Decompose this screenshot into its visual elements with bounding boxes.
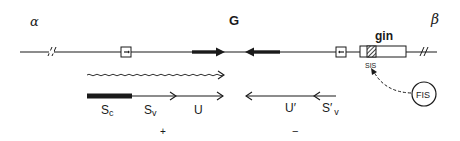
fis-binding-dashed-arrow: [371, 68, 411, 93]
inverted-repeat-left-arrow: [192, 48, 225, 57]
inverted-repeat-right-arrow: [245, 48, 280, 57]
minus-strand-sign: −: [292, 125, 298, 137]
sis-label: SIS: [365, 62, 377, 69]
sv-prime-label: S′v: [322, 101, 339, 117]
u-label: U: [194, 103, 203, 117]
sc-label: Sc: [101, 103, 114, 118]
u-prime-label: U′: [285, 101, 297, 115]
gin-label: gin: [375, 29, 393, 43]
plus-strand-sign: +: [160, 126, 166, 137]
right-promoter-box: [336, 47, 346, 57]
beta-label: β: [430, 11, 439, 27]
plus-strand-line: [87, 92, 223, 100]
left-promoter-box: [121, 47, 131, 57]
g-segment-label: G: [229, 13, 239, 28]
gin-gene-box: [360, 46, 406, 57]
fis-label: FIS: [416, 90, 430, 100]
fis-protein: FIS: [412, 82, 436, 106]
sv-label: Sv: [144, 103, 157, 118]
minus-strand-line: [246, 92, 336, 100]
g-inversion-diagram: α β G gi: [0, 0, 460, 141]
wavy-transcript-arrow: [87, 71, 224, 79]
alpha-label: α: [30, 14, 39, 29]
